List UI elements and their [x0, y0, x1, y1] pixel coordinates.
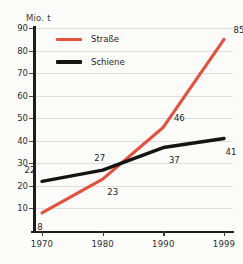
y-tick-label: 70: [17, 68, 28, 78]
legend: Straße Schiene: [56, 34, 125, 67]
legend-label-schiene: Schiene: [91, 57, 125, 67]
data-point-label: 41: [226, 147, 237, 157]
legend-swatch-strasse: [56, 38, 82, 41]
y-tick-label: 90: [17, 23, 28, 33]
y-axis-line: [33, 26, 36, 232]
legend-swatch-schiene: [56, 60, 82, 64]
x-tick-label: 1980: [91, 239, 113, 249]
y-tick-label: 50: [17, 113, 28, 123]
legend-item-schiene[interactable]: Schiene: [56, 57, 125, 67]
y-tick-label: 0: [23, 226, 28, 236]
series-line-schiene: [42, 139, 224, 182]
x-axis-line: [31, 231, 234, 233]
legend-label-strasse: Straße: [91, 34, 119, 44]
x-tick-mark: [103, 231, 104, 236]
x-tick-mark: [163, 231, 164, 236]
y-tick-label: 10: [17, 203, 28, 213]
y-tick-label: 40: [17, 136, 28, 146]
y-tick-label: 80: [17, 46, 28, 56]
y-axis-unit-label: Mio. t: [26, 13, 51, 23]
data-point-label: 85: [234, 25, 243, 35]
legend-item-strasse[interactable]: Straße: [56, 34, 125, 44]
data-point-label: 27: [94, 153, 105, 163]
x-tick-label: 1999: [213, 239, 235, 249]
y-tick-label: 60: [17, 91, 28, 101]
x-tick-label: 1990: [152, 239, 174, 249]
x-tick-mark: [224, 231, 225, 236]
line-chart: Mio. t 0102030405060708090 8234685222737…: [0, 0, 243, 264]
x-tick-mark: [42, 231, 43, 236]
data-point-label: 46: [174, 113, 185, 123]
x-tick-label: 1970: [31, 239, 53, 249]
data-point-label: 23: [107, 187, 118, 197]
y-tick-label: 20: [17, 181, 28, 191]
data-point-label: 37: [169, 155, 180, 165]
